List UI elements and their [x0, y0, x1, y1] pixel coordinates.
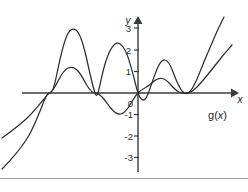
function-label-g: g(x) — [208, 109, 227, 121]
graph-figure: 3 2 1 -1 -2 -3 0 y x g(x) — [0, 0, 248, 192]
tick-label-1: 1 — [126, 66, 131, 77]
curve-short-amplitude — [2, 45, 232, 138]
tick-label-neg2: -2 — [125, 131, 133, 142]
tick-label-neg3: -3 — [125, 152, 133, 163]
x-axis-label: x — [237, 94, 244, 105]
y-axis-label: y — [125, 15, 132, 26]
bottom-divider — [0, 178, 248, 179]
function-label-paren-close: ) — [223, 109, 227, 121]
y-axis-arrow — [134, 16, 143, 24]
coordinate-plot: 3 2 1 -1 -2 -3 0 y x g(x) — [0, 0, 248, 192]
x-axis-group — [22, 89, 239, 98]
